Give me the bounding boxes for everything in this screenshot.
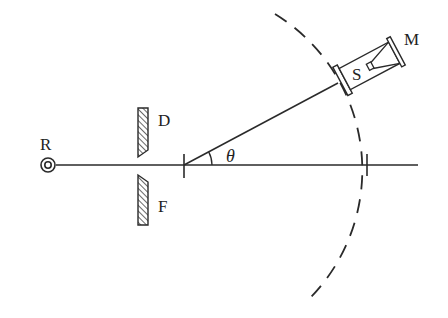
detector-assembly (333, 37, 405, 96)
dashed-track (275, 14, 362, 303)
plate-d (138, 108, 148, 157)
plate-f (138, 175, 148, 225)
angle-arc (209, 152, 212, 165)
mirror-label: M (404, 30, 419, 49)
angle-label: θ (226, 146, 235, 166)
source-label: R (40, 135, 52, 154)
apparatus-diagram: R D F θ S M (0, 0, 448, 318)
plate-d-label: D (158, 111, 170, 130)
source-r-icon (41, 158, 55, 172)
plate-f-label: F (158, 197, 167, 216)
rotating-arm (184, 83, 338, 165)
detector-label: S (352, 65, 361, 84)
